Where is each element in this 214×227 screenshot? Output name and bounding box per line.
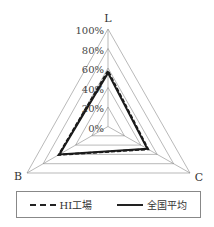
chart-legend: HI工場 全国平均: [16, 191, 201, 218]
legend-label: 全国平均: [147, 197, 187, 212]
tick-label: 100%: [75, 25, 104, 36]
tick-label: 0%: [88, 123, 104, 134]
grid-ring: [43, 49, 173, 164]
radar-chart: 0%20%40%60%80%100%LBC: [0, 0, 214, 190]
legend-item-hi-factory: HI工場: [30, 197, 93, 212]
dashed-line-swatch: [30, 204, 56, 206]
axis-label-b: B: [14, 170, 22, 183]
tick-label: 60%: [82, 64, 104, 75]
legend-label: HI工場: [60, 197, 93, 212]
legend-item-national-average: 全国平均: [117, 197, 187, 212]
solid-line-swatch: [117, 204, 143, 206]
tick-label: 80%: [82, 45, 104, 56]
axis-label-c: C: [195, 171, 203, 184]
axis-label-l: L: [104, 12, 112, 25]
